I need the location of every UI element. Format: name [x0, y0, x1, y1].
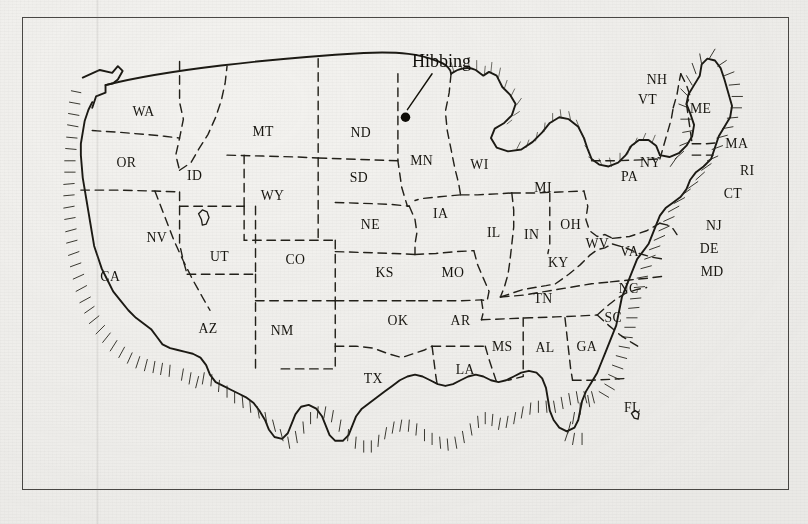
illustration-frame	[22, 17, 789, 490]
page-canvas: WA OR CA NV ID MT WY UT AZ CO NM ND SD N…	[0, 0, 808, 524]
figure-caption-clipped	[0, 508, 808, 524]
scan-artifact-line	[96, 0, 99, 524]
